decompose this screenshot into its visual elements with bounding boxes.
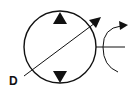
hydraulic-pump-symbol bbox=[0, 0, 133, 93]
variable-displacement-arrow-line bbox=[24, 23, 95, 76]
rotation-direction-arc bbox=[103, 26, 121, 72]
flow-direction-down-triangle-icon bbox=[53, 71, 67, 83]
rotation-arrowhead-icon bbox=[119, 21, 128, 30]
flow-direction-up-triangle-icon bbox=[53, 12, 67, 24]
symbol-label: D bbox=[9, 74, 18, 88]
